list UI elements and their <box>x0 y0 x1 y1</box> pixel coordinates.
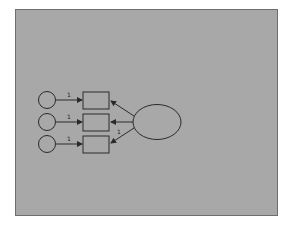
error-path-label-3: 1 <box>67 135 71 142</box>
error-term-3[interactable] <box>39 136 56 153</box>
indicator-1[interactable] <box>83 92 109 109</box>
latent-factor[interactable] <box>133 105 181 140</box>
path-diagram: 1 1 1 1 <box>0 0 295 226</box>
indicator-2[interactable] <box>83 114 109 131</box>
error-path-label-2: 1 <box>67 113 71 120</box>
error-path-label-1: 1 <box>67 91 71 98</box>
loading-path-1[interactable] <box>111 101 134 116</box>
error-term-1[interactable] <box>39 92 56 109</box>
error-term-2[interactable] <box>39 114 56 131</box>
loading-label-3: 1 <box>117 128 121 135</box>
indicator-3[interactable] <box>83 136 109 153</box>
loading-path-3[interactable] <box>111 128 134 143</box>
